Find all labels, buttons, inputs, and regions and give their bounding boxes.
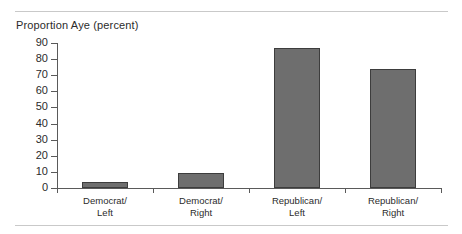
y-tick-mark — [51, 156, 57, 157]
y-tick-label: 70 — [24, 67, 48, 82]
x-axis-category-label: Republican/Left — [249, 195, 345, 218]
y-tick-mark — [51, 140, 57, 141]
y-tick-mark — [51, 59, 57, 60]
x-axis-category-label: Democrat/Left — [57, 195, 153, 218]
y-tick-mark — [51, 91, 57, 92]
x-tick-mark — [345, 188, 346, 193]
bar — [178, 173, 224, 188]
x-axis-category-label: Democrat/Right — [153, 195, 249, 218]
x-axis-category-label-line: Republican/ — [249, 195, 345, 207]
y-tick-label: 40 — [24, 116, 48, 131]
y-tick-label: 90 — [24, 35, 48, 50]
x-axis-category-label-line: Republican/ — [345, 195, 441, 207]
x-tick-mark — [57, 188, 58, 193]
y-tick-label: 50 — [24, 99, 48, 114]
y-axis-title: Proportion Aye (percent) — [16, 19, 139, 31]
bar — [370, 69, 416, 188]
y-tick-mark — [51, 172, 57, 173]
y-tick-label: 60 — [24, 83, 48, 98]
x-axis-category-label-line: Right — [345, 207, 441, 219]
y-tick-label: 0 — [24, 180, 48, 195]
y-tick-mark — [51, 107, 57, 108]
x-axis-category-label-line: Left — [57, 207, 153, 219]
y-tick-mark — [51, 124, 57, 125]
x-axis-category-label-line: Left — [249, 207, 345, 219]
x-axis-category-label-line: Democrat/ — [153, 195, 249, 207]
y-tick-label: 20 — [24, 148, 48, 163]
y-axis-line — [57, 43, 58, 188]
y-tick-label: 10 — [24, 164, 48, 179]
y-tick-mark — [51, 75, 57, 76]
x-tick-mark — [153, 188, 154, 193]
x-tick-mark — [249, 188, 250, 193]
x-axis-category-label-line: Right — [153, 207, 249, 219]
chart-figure: Proportion Aye (percent) 010203040506070… — [0, 0, 462, 234]
bar — [274, 48, 320, 188]
x-axis-category-label-line: Democrat/ — [57, 195, 153, 207]
bottom-divider-rule — [15, 225, 448, 226]
x-tick-mark — [441, 188, 442, 193]
y-tick-label: 80 — [24, 51, 48, 66]
y-tick-label: 30 — [24, 132, 48, 147]
y-tick-mark — [51, 43, 57, 44]
x-axis-category-label: Republican/Right — [345, 195, 441, 218]
bar — [82, 182, 128, 188]
plot-area: 0102030405060708090 Democrat/LeftDemocra… — [57, 43, 441, 188]
top-divider-rule — [15, 11, 448, 12]
